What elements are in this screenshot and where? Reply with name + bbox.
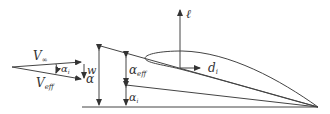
- v-eff-label: Veff: [36, 76, 55, 91]
- v-inf-label: V∞: [33, 49, 48, 64]
- alpha-i-arc: [56, 64, 57, 73]
- v-eff-vector: [12, 67, 81, 79]
- forces: ℓ di: [180, 7, 218, 76]
- induced-drag-label: di: [208, 61, 218, 76]
- alpha-i-triangle-label: αi: [61, 63, 70, 75]
- alpha-i-label: αi: [129, 91, 138, 104]
- lift-label: ℓ: [186, 7, 191, 21]
- alpha-label: α: [86, 72, 94, 86]
- induced-drag-diagram: V∞ Veff αi w α αeff αi ℓ di: [0, 0, 330, 114]
- velocity-triangle: V∞ Veff αi w: [12, 49, 97, 91]
- airfoil: [145, 51, 318, 107]
- angle-arrows: α αeff αi: [86, 50, 147, 105]
- alpha-eff-label: αeff: [129, 63, 147, 78]
